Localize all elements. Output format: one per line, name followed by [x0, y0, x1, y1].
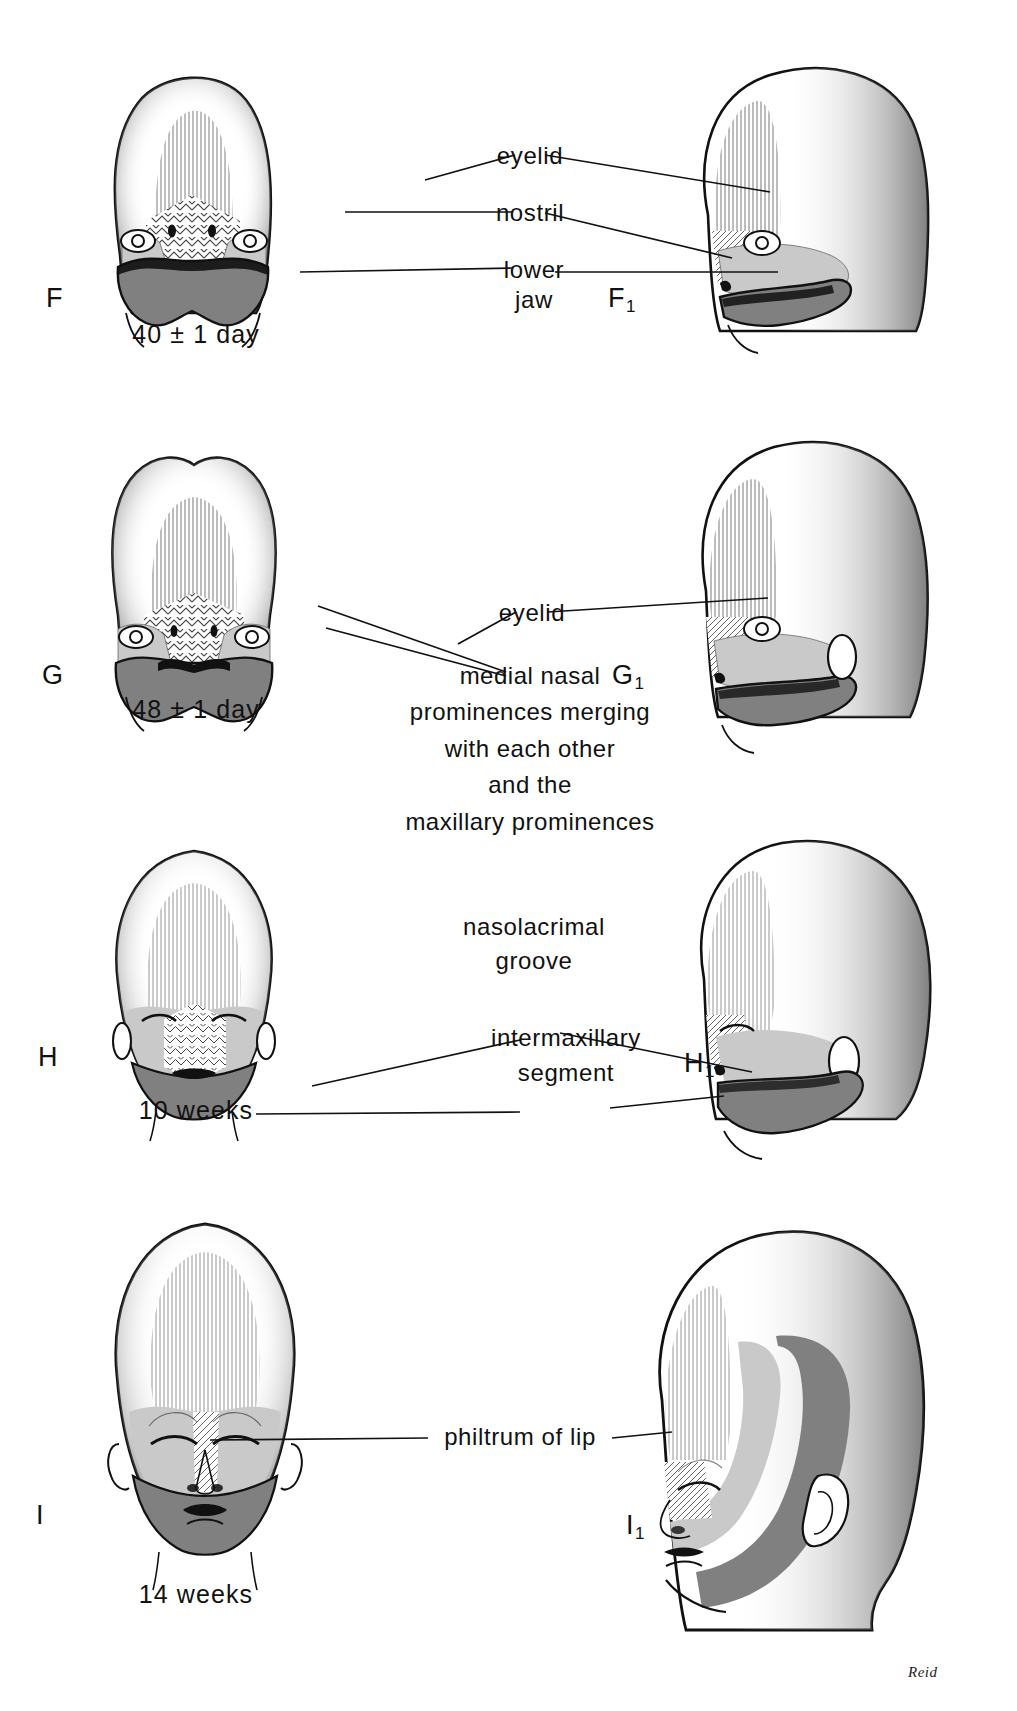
leader-eyelid-right: [545, 155, 770, 192]
leader-nasolacrimal-left: [312, 1040, 520, 1086]
label-nostril: nostril: [496, 198, 564, 229]
panel-letter-F1-text: F: [608, 283, 625, 313]
panel-letter-H1-sub: 1: [705, 1062, 715, 1081]
label-lower-jaw-line1: lower: [504, 255, 564, 286]
label-nasolacrimal-groove-line2: groove: [496, 946, 573, 977]
label-lower-jaw-line2: jaw: [515, 285, 553, 316]
leader-philtrum-right: [612, 1432, 672, 1438]
panel-letter-H-text: H: [38, 1042, 58, 1072]
panel-letter-I1: I1: [626, 1510, 644, 1541]
panel-letter-I-text: I: [36, 1500, 44, 1530]
label-nasolacrimal-groove-line1: nasolacrimal: [463, 912, 605, 943]
panel-letter-G1-text: G: [612, 660, 634, 690]
stage-caption-H: 10 weeks: [139, 1096, 253, 1125]
face-development-plate: eyelid nostril lower jaw F F1 40 ± 1 day: [0, 0, 1017, 1711]
artist-signature: Reid: [908, 1664, 938, 1681]
panel-letter-H: H: [38, 1042, 58, 1073]
label-intermaxillary-segment-line1: intermaxillary: [491, 1023, 641, 1054]
panel-H: nasolacrimal groove intermaxillary segme…: [0, 790, 1017, 1180]
label-medial-nasal-line3: with each other: [320, 731, 740, 767]
panel-letter-F: F: [46, 283, 63, 314]
panel-letter-H1-text: H: [684, 1048, 704, 1078]
leader-lowerjaw-left: [300, 268, 512, 272]
panel-letter-G-text: G: [42, 660, 64, 690]
label-medial-nasal-line1: medial nasal: [320, 658, 740, 694]
label-eyelid: eyelid: [497, 141, 563, 172]
leader-philtrum-left: [210, 1438, 428, 1440]
leader-intermaxillary-right: [610, 1096, 724, 1108]
stage-caption-I: 14 weeks: [139, 1580, 253, 1609]
panel-letter-I1-sub: 1: [635, 1524, 645, 1543]
stage-caption-F: 40 ± 1 day: [132, 320, 260, 349]
label-philtrum-of-lip: philtrum of lip: [444, 1422, 596, 1453]
leader-eyelid-right: [548, 598, 768, 612]
label-intermaxillary-segment-line2: segment: [518, 1058, 614, 1089]
panel-G: eyelid medial nasal prominences merging …: [0, 400, 1017, 790]
stage-caption-G: 48 ± 1 day: [132, 695, 260, 724]
panel-letter-G: G: [42, 660, 64, 691]
panel-letter-H1: H1: [684, 1048, 714, 1079]
panel-letter-F-text: F: [46, 283, 63, 313]
panel-letter-G1: G1: [612, 660, 643, 691]
panel-I: philtrum of lip I I1 14 weeks: [0, 1180, 1017, 1711]
panel-letter-I: I: [36, 1500, 44, 1531]
leader-intermaxillary-left: [256, 1112, 520, 1114]
label-eyelid: eyelid: [499, 598, 565, 629]
panel-letter-F1: F1: [608, 283, 635, 314]
panel-F: eyelid nostril lower jaw F F1 40 ± 1 day: [0, 0, 1017, 400]
panel-letter-I1-text: I: [626, 1510, 634, 1540]
leader-nostril-right: [545, 213, 732, 258]
panel-letter-G1-sub: 1: [635, 674, 645, 693]
label-medial-nasal-line2: prominences merging: [320, 694, 740, 730]
panel-letter-F1-sub: 1: [626, 297, 636, 316]
